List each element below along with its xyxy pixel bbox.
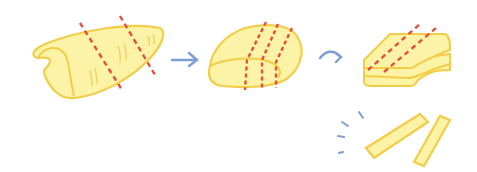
- illustration: [0, 0, 477, 172]
- stacked-slices-icon: [364, 24, 450, 86]
- arrow-right-icon: [172, 53, 197, 66]
- potato-to-fries-illustration: [0, 0, 477, 172]
- arrow-curved-icon: [320, 52, 341, 62]
- sparkle-icon: [338, 112, 363, 153]
- potato-icon: [33, 16, 163, 98]
- fries-icon: [366, 114, 450, 166]
- trimmed-potato-icon: [209, 22, 302, 90]
